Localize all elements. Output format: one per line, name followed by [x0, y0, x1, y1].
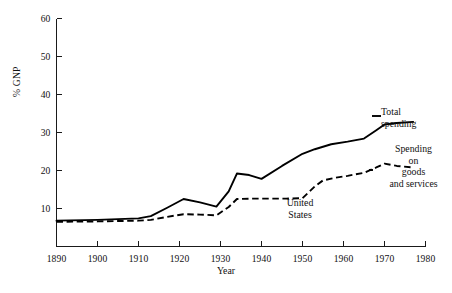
y-tick-label: 50 — [27, 52, 51, 62]
annotation-goods-and-services: Spending on goods and services — [377, 143, 450, 189]
data-series-group — [57, 122, 414, 222]
y-tick-label: 60 — [27, 14, 51, 24]
x-tick-label: 1890 — [47, 254, 67, 264]
chart-container: 102030405060 189019001910192019301940195… — [0, 0, 452, 293]
x-tick-label: 1940 — [252, 254, 272, 264]
annotation-united-states: United States — [272, 197, 328, 220]
axes-group — [57, 19, 426, 247]
annotation-total-spending: Total spending — [381, 106, 416, 129]
y-tick-label: 30 — [27, 128, 51, 138]
y-axis-title: % GNP — [11, 66, 22, 97]
x-tick-label: 1970 — [375, 254, 395, 264]
x-tick-label: 1930 — [211, 254, 231, 264]
y-tick-label: 20 — [27, 166, 51, 176]
x-tick-label: 1980 — [416, 254, 436, 264]
axis-ticks-group — [57, 19, 426, 247]
x-tick-label: 1920 — [170, 254, 190, 264]
series-line-total-spending — [57, 122, 414, 221]
x-axis-title: Year — [0, 265, 452, 276]
series-line-goods-and-services — [57, 164, 414, 222]
y-tick-label: 10 — [27, 204, 51, 214]
x-tick-label: 1900 — [88, 254, 108, 264]
x-tick-label: 1910 — [129, 254, 149, 264]
x-tick-label: 1950 — [293, 254, 313, 264]
gnp-axis — [57, 19, 426, 247]
y-tick-label: 40 — [27, 90, 51, 100]
x-tick-label: 1960 — [334, 254, 354, 264]
